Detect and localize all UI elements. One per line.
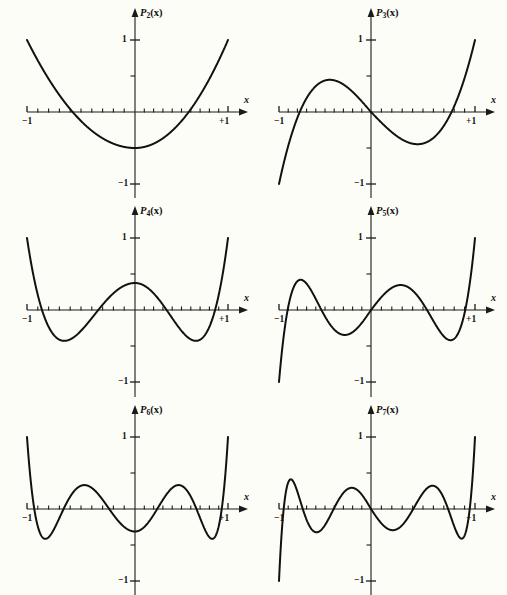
y-axis-arrow: [368, 8, 375, 17]
y-tick-label-top: 1: [358, 233, 363, 243]
x-axis-arrow: [486, 506, 495, 513]
x-axis-arrow: [239, 307, 248, 314]
x-axis-arrow: [239, 506, 248, 513]
chart-panel-p6: P6(x)x1−1−1+1: [0, 397, 253, 595]
x-tick-label-right: +1: [219, 315, 229, 325]
y-axis-arrow: [368, 206, 375, 215]
y-axis-arrow: [368, 405, 375, 414]
function-args: (x): [386, 7, 398, 18]
y-tick-label-top: 1: [122, 35, 127, 45]
x-tick-label-right: +1: [466, 117, 476, 127]
x-tick-label-right: +1: [219, 514, 229, 524]
x-axis-arrow: [486, 109, 495, 116]
y-tick-label-bottom: −1: [354, 179, 364, 189]
chart-panel-p5: P5(x)x1−1−1+1: [253, 198, 507, 397]
y-axis-arrow: [132, 206, 139, 215]
x-axis-label: x: [244, 492, 249, 502]
panel-function-label: P7(x): [376, 405, 398, 417]
x-tick-label-left: −1: [274, 514, 284, 524]
y-tick-label-top: 1: [358, 35, 363, 45]
x-axis-label: x: [491, 293, 496, 303]
chart-panel-p3: P3(x)x1−1−1+1: [253, 0, 507, 198]
function-args: (x): [386, 205, 398, 216]
curve-p4: [27, 238, 228, 341]
chart-panel-p7: P7(x)x1−1−1+1: [253, 397, 507, 595]
legendre-polynomials-figure: P2(x)x1−1−1+1P3(x)x1−1−1+1P4(x)x1−1−1+1P…: [0, 0, 507, 595]
curve-p2: [27, 40, 228, 148]
function-args: (x): [150, 404, 162, 415]
y-tick-label-bottom: −1: [118, 576, 128, 586]
x-tick-label-left: −1: [22, 514, 32, 524]
x-axis-arrow: [239, 109, 248, 116]
y-tick-label-bottom: −1: [354, 377, 364, 387]
function-args: (x): [386, 404, 398, 415]
chart-panel-p2: P2(x)x1−1−1+1: [0, 0, 253, 198]
y-tick-label-bottom: −1: [118, 377, 128, 387]
x-axis-label: x: [244, 293, 249, 303]
panel-function-label: P5(x): [376, 206, 398, 218]
panel-function-label: P6(x): [140, 405, 162, 417]
panel-function-label: P2(x): [140, 8, 162, 20]
x-tick-label-right: +1: [466, 315, 476, 325]
y-tick-label-top: 1: [122, 432, 127, 442]
y-tick-label-bottom: −1: [118, 179, 128, 189]
chart-panel-p4: P4(x)x1−1−1+1: [0, 198, 253, 397]
x-tick-label-right: +1: [219, 117, 229, 127]
x-tick-label-left: −1: [22, 117, 32, 127]
function-args: (x): [150, 7, 162, 18]
y-tick-label-bottom: −1: [354, 576, 364, 586]
panel-function-label: P4(x): [140, 206, 162, 218]
x-tick-label-left: −1: [274, 117, 284, 127]
y-axis-arrow: [132, 8, 139, 17]
curve-p6: [27, 437, 228, 539]
x-tick-label-left: −1: [274, 315, 284, 325]
x-axis-label: x: [491, 492, 496, 502]
y-axis-arrow: [132, 405, 139, 414]
x-tick-label-right: +1: [466, 514, 476, 524]
x-tick-label-left: −1: [22, 315, 32, 325]
x-axis-label: x: [244, 95, 249, 105]
x-axis-arrow: [486, 307, 495, 314]
x-axis-label: x: [491, 95, 496, 105]
y-tick-label-top: 1: [122, 233, 127, 243]
y-tick-label-top: 1: [358, 432, 363, 442]
panel-function-label: P3(x): [376, 8, 398, 20]
function-args: (x): [150, 205, 162, 216]
